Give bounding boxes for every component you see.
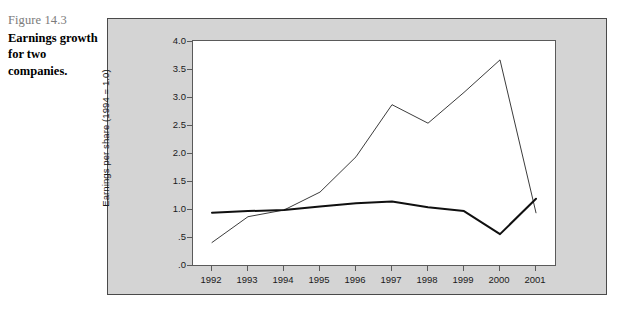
figure-number: Figure 14.3 bbox=[8, 12, 100, 29]
y-axis-tick-label: 3.0 bbox=[156, 92, 186, 102]
y-axis-title: Earnings per share (1994 = 1.0) bbox=[100, 33, 114, 243]
y-axis-tick-label: .5 bbox=[156, 232, 186, 242]
line-chart-svg bbox=[193, 41, 555, 265]
y-axis-tick-label: .0 bbox=[156, 260, 186, 270]
x-axis-tick-label: 1995 bbox=[299, 275, 339, 285]
series-line-aep bbox=[212, 199, 536, 234]
x-axis-tick-label: 1999 bbox=[443, 275, 483, 285]
y-axis-tick-label: 2.5 bbox=[156, 120, 186, 130]
y-axis-tick-label: 1.0 bbox=[156, 204, 186, 214]
x-axis-tick-label: 1997 bbox=[371, 275, 411, 285]
figure-title: Earnings growth for two companies. bbox=[8, 30, 100, 80]
figure-caption: Figure 14.3 Earnings growth for two comp… bbox=[8, 12, 100, 79]
figure-panel: Earnings per share (1994 = 1.0) 4.03.53.… bbox=[107, 18, 607, 295]
x-axis-tick-label: 2000 bbox=[479, 275, 519, 285]
x-axis-tick-label: 1993 bbox=[227, 275, 267, 285]
x-axis-tick-label: 1996 bbox=[335, 275, 375, 285]
y-axis-tick-label: 1.5 bbox=[156, 176, 186, 186]
x-axis-tick-label: 2001 bbox=[515, 275, 555, 285]
series-line-intel bbox=[212, 60, 536, 243]
x-axis-tick-label: 1992 bbox=[191, 275, 231, 285]
y-axis-tick-label: 3.5 bbox=[156, 64, 186, 74]
chart-plot-area bbox=[192, 40, 556, 266]
x-axis-tick-label: 1998 bbox=[407, 275, 447, 285]
y-axis-tick-label: 4.0 bbox=[156, 36, 186, 46]
x-axis-tick-label: 1994 bbox=[263, 275, 303, 285]
y-axis-tick-label: 2.0 bbox=[156, 148, 186, 158]
